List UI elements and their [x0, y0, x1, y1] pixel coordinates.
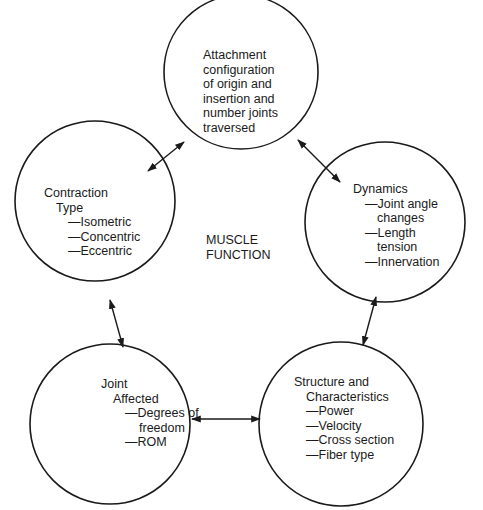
arrow-dynamics-structure: [363, 297, 376, 345]
node-contraction-type: Contraction Type —Isometric —Concentric …: [44, 186, 140, 259]
joint-subtitle: Affected: [101, 392, 199, 407]
attachment-line: of origin and: [203, 77, 278, 92]
contraction-item: —Eccentric: [44, 244, 140, 259]
joint-title: Joint: [101, 377, 199, 392]
structure-subtitle: Characteristics: [294, 390, 394, 405]
structure-item: —Cross section: [294, 433, 394, 448]
attachment-line: Attachment: [203, 48, 278, 63]
node-attachment: Attachment configuration of origin and i…: [203, 48, 278, 135]
attachment-line: configuration: [203, 63, 278, 78]
joint-item: —Degrees of: [101, 406, 199, 421]
dynamics-item: changes: [353, 211, 439, 226]
node-structure: Structure and Characteristics —Power —Ve…: [294, 375, 394, 462]
arrow-contraction-joint: [110, 300, 123, 347]
node-joint-affected: Joint Affected —Degrees of freedom —ROM: [101, 377, 199, 450]
dynamics-item: —Joint angle: [353, 197, 439, 212]
joint-item: —ROM: [101, 435, 199, 450]
dynamics-item: —Innervation: [353, 255, 439, 270]
joint-item: freedom: [101, 421, 199, 436]
center-label-line: MUSCLE: [206, 233, 271, 248]
attachment-line: insertion and: [203, 92, 278, 107]
dynamics-item: —Length: [353, 226, 439, 241]
dynamics-item: tension: [353, 240, 439, 255]
center-label: MUSCLE FUNCTION: [206, 233, 271, 262]
attachment-line: traversed: [203, 121, 278, 136]
center-label-line: FUNCTION: [206, 248, 271, 263]
node-dynamics: Dynamics —Joint angle changes —Length te…: [353, 182, 439, 269]
structure-item: —Velocity: [294, 419, 394, 434]
structure-title: Structure and: [294, 375, 394, 390]
contraction-subtitle: Type: [44, 201, 140, 216]
structure-item: —Power: [294, 404, 394, 419]
contraction-item: —Isometric: [44, 215, 140, 230]
dynamics-title: Dynamics: [353, 182, 439, 197]
attachment-line: number joints: [203, 106, 278, 121]
contraction-item: —Concentric: [44, 230, 140, 245]
contraction-title: Contraction: [44, 186, 140, 201]
structure-item: —Fiber type: [294, 448, 394, 463]
